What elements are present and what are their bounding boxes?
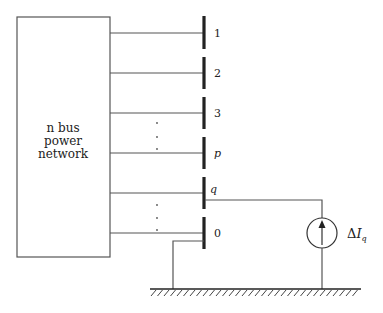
ellipsis-upper (156, 122, 158, 150)
network-label-line-3: network (38, 147, 89, 161)
arrow-head-icon (319, 220, 326, 228)
bus-connections (110, 33, 204, 233)
current-source-label: ΔIq (347, 226, 367, 243)
wire-bus-0-to-ground (173, 241, 204, 289)
bus-label-q: q (210, 183, 217, 196)
bus-label-0: 0 (214, 227, 221, 240)
bus-label-2: 2 (214, 67, 221, 80)
network-diagram: n bus power network 1 2 3 p q 0 (0, 0, 383, 313)
ground-hatch-icon (151, 290, 358, 296)
ellipsis-lower (156, 204, 158, 231)
network-label-line-2: power (44, 134, 82, 148)
bus-label-1: 1 (214, 27, 221, 40)
bus-label-p: p (214, 147, 221, 160)
bus-label-3: 3 (214, 107, 221, 120)
network-label-line-1: n bus (46, 121, 79, 135)
wire-bus-q-to-source (205, 200, 322, 218)
